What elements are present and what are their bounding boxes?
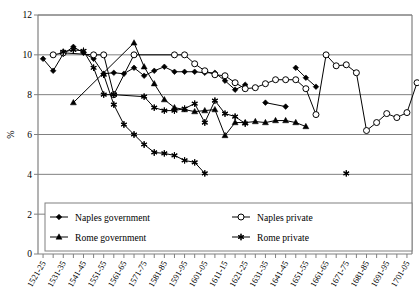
data-point-marker [333,63,339,69]
data-point-marker [414,80,419,86]
data-point-marker [353,70,359,76]
data-point-marker [404,110,410,116]
y-tick-label: 8 [27,90,32,100]
data-point-marker [212,72,218,78]
data-point-marker [238,214,244,220]
data-point-marker [293,77,299,83]
legend-label: Naples government [75,212,150,223]
y-tick-label: 4 [27,170,32,180]
data-point-marker [182,52,188,58]
chart-container: 024681012%1521-251531-351541-451551-5515… [0,0,419,301]
data-point-marker [242,86,248,92]
data-point-marker [252,85,258,91]
data-point-marker [222,73,228,79]
x-ticks: 1521-251531-351541-451551-551561-651571-… [25,254,412,289]
y-tick-label: 0 [27,249,32,259]
line-chart: 024681012%1521-251531-351541-451551-5515… [0,0,419,301]
y-tick-label: 2 [27,210,32,220]
y-tick-label: 6 [27,130,32,140]
y-axis-title: % [5,130,16,138]
legend-label: Rome government [75,232,146,243]
data-point-marker [394,115,400,121]
data-point-marker [384,111,390,117]
y-tick-label: 10 [23,50,33,60]
data-point-marker [91,52,97,58]
data-point-marker [262,81,268,87]
y-tick-label: 12 [23,10,33,20]
x-tick-label: 1601-05 [187,259,210,289]
data-point-marker [171,52,177,58]
legend-label: Naples private [257,212,313,223]
data-point-marker [283,77,289,83]
legend-label: Rome private [257,232,309,243]
data-point-marker [131,52,137,58]
data-point-marker [303,86,309,92]
data-point-marker [202,68,208,74]
data-point-marker [343,62,349,68]
data-point-marker [323,52,329,58]
data-point-marker [50,52,56,58]
legend-box [45,203,412,251]
data-point-marker [101,52,107,58]
data-point-marker [192,61,198,67]
data-point-marker [313,112,319,118]
x-tick-label: 1701-05 [389,259,412,289]
data-point-marker [364,128,370,134]
data-point-marker [273,77,279,83]
legend: Naples governmentNaples privateRome gove… [45,203,412,251]
data-point-marker [232,80,238,86]
data-point-marker [374,120,380,126]
